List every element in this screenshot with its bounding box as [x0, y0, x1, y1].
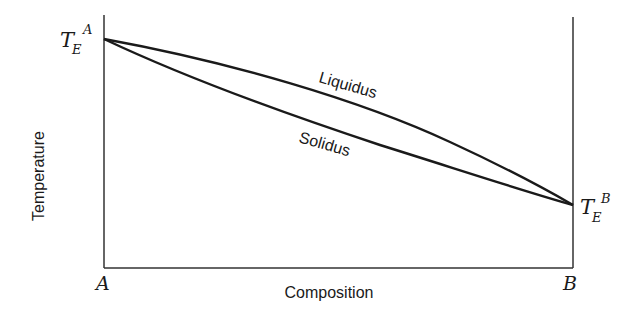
- liquidus-label: Liquidus: [317, 69, 379, 102]
- melting-point-b-label: T E B: [580, 191, 611, 225]
- solidus-curve: [104, 39, 573, 205]
- melting-point-b-sup: B: [600, 191, 611, 206]
- component-b-label: B: [562, 272, 577, 294]
- y-axis-label: Temperature: [30, 131, 47, 221]
- melting-point-a-label: T E A: [60, 22, 92, 57]
- liquidus-curve: [104, 39, 573, 205]
- x-axis-label: Composition: [285, 284, 374, 301]
- phase-diagram: Liquidus Solidus Temperature Composition…: [0, 0, 636, 321]
- melting-point-a-sub: E: [71, 42, 82, 57]
- component-a-label: A: [94, 272, 110, 294]
- melting-point-b-sub: E: [591, 210, 602, 225]
- melting-point-a-sup: A: [82, 22, 92, 37]
